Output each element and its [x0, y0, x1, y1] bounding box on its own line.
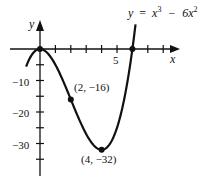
y-tick-label--10: −10	[12, 76, 30, 88]
equation-title: y = x3 − 6x2	[127, 1, 198, 20]
x-tick-label-5: 5	[113, 54, 119, 66]
point-marker	[68, 96, 74, 102]
point-marker	[99, 147, 105, 153]
y-axis-label: y	[28, 17, 35, 31]
marked-points	[37, 46, 135, 153]
x-axis-label: x	[169, 52, 176, 66]
y-tick-label--30: −30	[12, 139, 30, 151]
chart: y x 5 −10 −20 −30 (2, −16) (4, −32) y = …	[0, 0, 204, 184]
point-marker	[129, 46, 135, 52]
y-tick-label--20: −20	[12, 107, 30, 119]
point-marker	[37, 46, 43, 52]
y-axis-arrow-icon	[36, 20, 44, 31]
point-label-4-neg32: (4, −32)	[81, 153, 117, 166]
point-label-2-neg16: (2, −16)	[74, 81, 110, 94]
